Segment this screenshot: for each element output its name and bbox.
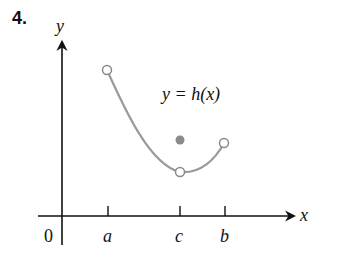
y-axis-label: y (54, 16, 64, 36)
tick-label-a: a (103, 226, 112, 246)
open-point-left (103, 66, 112, 75)
graph: y x 0 a c b y = h(x) (0, 0, 340, 260)
origin-label: 0 (44, 226, 53, 246)
tick-label-c: c (175, 226, 183, 246)
open-point-min (176, 168, 185, 177)
open-point-right (220, 139, 229, 148)
function-label: y = h(x) (160, 84, 220, 105)
x-axis-label: x (299, 205, 308, 225)
filled-point (176, 136, 185, 145)
tick-label-b: b (220, 226, 229, 246)
